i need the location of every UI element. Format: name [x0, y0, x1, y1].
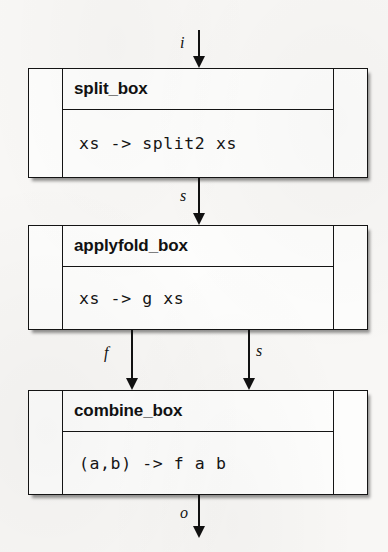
edge-applyfold-to-combine-s — [248, 330, 250, 392]
split-box-right-port — [333, 69, 367, 177]
edge-split-to-applyfold-label: s — [180, 188, 186, 204]
combine-box-left-port — [29, 391, 63, 494]
combine-box-right-port — [333, 391, 367, 494]
edge-applyfold-to-combine-s-label: s — [256, 343, 262, 359]
edge-split-to-applyfold-line — [198, 178, 200, 214]
edge-split-to-applyfold — [198, 178, 200, 226]
applyfold-box-expression: xs -> g xs — [63, 267, 333, 329]
edge-split-to-applyfold-arrowhead — [193, 213, 205, 225]
edge-applyfold-to-combine-f-arrowhead — [126, 378, 138, 390]
applyfold-box-left-port — [29, 226, 63, 329]
edge-applyfold-to-combine-s-arrowhead — [243, 378, 255, 390]
edge-output-o-line — [198, 495, 200, 527]
edge-applyfold-to-combine-f-label: f — [104, 345, 108, 361]
split-box-title: split_box — [63, 69, 333, 110]
edge-applyfold-to-combine-f-line — [131, 330, 133, 379]
applyfold-box-title: applyfold_box — [63, 226, 333, 267]
split-box-body: split_box xs -> split2 xs — [63, 69, 333, 177]
split-box-expression: xs -> split2 xs — [63, 110, 333, 177]
edge-input-i — [198, 30, 200, 68]
applyfold-box-body: applyfold_box xs -> g xs — [63, 226, 333, 329]
edge-input-i-line — [198, 30, 200, 57]
edge-applyfold-to-combine-s-line — [248, 330, 250, 379]
combine-box-body: combine_box (a,b) -> f a b — [63, 391, 333, 494]
edge-output-o-label: o — [180, 505, 188, 521]
edge-output-o — [198, 495, 200, 540]
node-combine-box[interactable]: combine_box (a,b) -> f a b — [28, 390, 368, 495]
node-split-box[interactable]: split_box xs -> split2 xs — [28, 68, 368, 178]
edge-applyfold-to-combine-f — [131, 330, 133, 392]
diagram-canvas: i split_box xs -> split2 xs s applyfold_… — [0, 0, 388, 552]
edge-input-i-arrowhead — [193, 56, 205, 68]
split-box-left-port — [29, 69, 63, 177]
applyfold-box-right-port — [333, 226, 367, 329]
combine-box-expression: (a,b) -> f a b — [63, 432, 333, 494]
combine-box-title: combine_box — [63, 391, 333, 432]
node-applyfold-box[interactable]: applyfold_box xs -> g xs — [28, 225, 368, 330]
edge-output-o-arrowhead — [193, 526, 205, 538]
edge-input-i-label: i — [180, 35, 184, 51]
